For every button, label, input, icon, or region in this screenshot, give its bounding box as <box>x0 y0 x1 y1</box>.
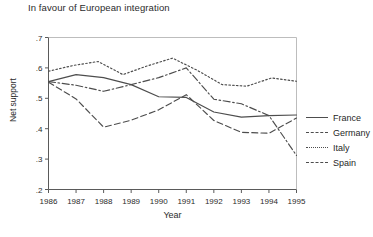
series-line-france <box>49 75 297 118</box>
svg-text:1991: 1991 <box>177 197 195 206</box>
legend-swatch-spain-icon <box>306 159 328 167</box>
svg-text:.4: .4 <box>36 125 43 134</box>
chart-figure: In favour of European integration Net su… <box>0 0 373 237</box>
legend-item-germany: Germany <box>306 127 370 139</box>
series-line-spain <box>49 68 297 156</box>
legend-swatch-france-icon <box>306 114 328 122</box>
data-series <box>49 58 297 155</box>
legend-item-spain: Spain <box>306 157 356 169</box>
svg-text:.3: .3 <box>36 155 43 164</box>
svg-text:.7: .7 <box>36 34 43 43</box>
legend-label-italy: Italy <box>333 143 350 153</box>
svg-text:1992: 1992 <box>205 197 223 206</box>
legend-item-italy: Italy <box>306 142 350 154</box>
y-axis-ticks: .2.3.4.5.6.7 <box>36 34 49 195</box>
legend-swatch-italy-icon <box>306 144 328 152</box>
series-line-italy <box>49 58 297 86</box>
svg-text:1994: 1994 <box>260 197 278 206</box>
x-axis-ticks: 1986198719881989199019911992199319941995 <box>40 190 306 206</box>
x-axis-title: Year <box>0 210 345 220</box>
svg-text:.2: .2 <box>36 186 43 195</box>
svg-text:1987: 1987 <box>67 197 85 206</box>
svg-text:1989: 1989 <box>122 197 140 206</box>
legend-item-france: France <box>306 112 361 124</box>
svg-text:1988: 1988 <box>95 197 113 206</box>
series-line-germany <box>49 82 297 133</box>
svg-text:.5: .5 <box>36 94 43 103</box>
svg-text:1995: 1995 <box>288 197 306 206</box>
svg-text:1990: 1990 <box>150 197 168 206</box>
svg-text:1986: 1986 <box>40 197 58 206</box>
axes <box>49 38 297 190</box>
legend-label-france: France <box>333 113 361 123</box>
svg-text:.6: .6 <box>36 64 43 73</box>
legend-swatch-germany-icon <box>306 129 328 137</box>
legend-label-spain: Spain <box>333 158 356 168</box>
legend-label-germany: Germany <box>333 128 370 138</box>
svg-text:1993: 1993 <box>232 197 250 206</box>
